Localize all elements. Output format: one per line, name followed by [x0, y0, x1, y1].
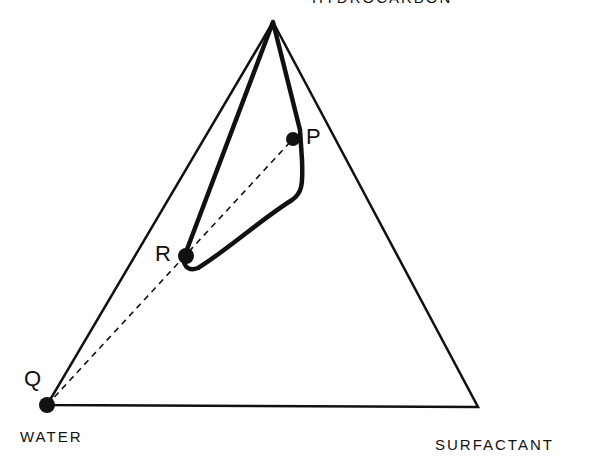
point-p-label: P: [306, 124, 321, 150]
point-q-label: Q: [24, 366, 41, 392]
water-label: WATER: [20, 428, 83, 445]
dilution-line-dashed: [47, 139, 293, 405]
point-q-marker: [39, 397, 55, 413]
ternary-phase-diagram: [0, 0, 601, 468]
point-p-marker: [286, 132, 300, 146]
point-r-label: R: [155, 241, 171, 267]
phase-boundary-curve: [184, 22, 302, 269]
surfactant-label: SURFACTANT: [435, 436, 554, 453]
point-r-marker: [178, 248, 194, 264]
triangle-outline: [47, 22, 478, 407]
hydrocarbon-label: HYDROCARBON: [312, 0, 452, 6]
